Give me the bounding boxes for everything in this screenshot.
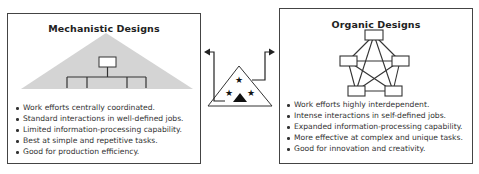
diagram-graphics: ★ ★ ★ [0,0,479,174]
svg-text:★: ★ [235,75,243,85]
svg-text:★: ★ [247,88,255,98]
svg-text:★: ★ [225,88,233,98]
organization-triangle-stars-icon: ★ ★ ★ [208,66,272,106]
hierarchy-pyramid-icon [21,33,193,89]
arrow-right-icon [252,49,275,81]
network-pentagon-icon [340,30,409,96]
